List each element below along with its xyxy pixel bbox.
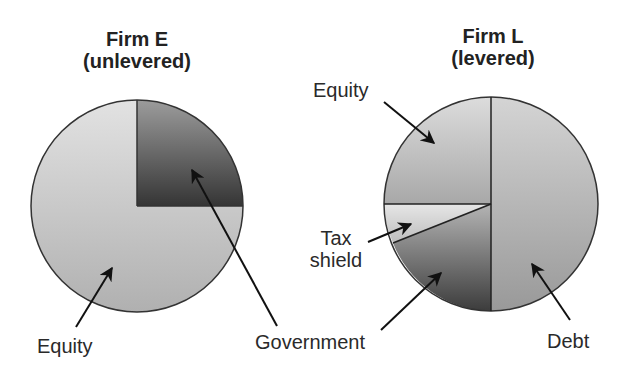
firm-l-equity-label: Equity — [313, 79, 369, 101]
firm-l-title-line2: (levered) — [418, 47, 568, 69]
debt-label: Debt — [547, 330, 589, 352]
arrow-government-firm-l — [381, 273, 441, 330]
firm-l-debt-slice — [491, 97, 598, 311]
firm-e-title-line1: Firm E — [62, 28, 212, 50]
firm-e-title: Firm E (unlevered) — [62, 28, 212, 72]
firm-l-title-line1: Firm L — [418, 25, 568, 47]
firm-e-equity-label: Equity — [37, 335, 93, 357]
firm-e-title-line2: (unlevered) — [62, 50, 212, 72]
firm-l-title: Firm L (levered) — [418, 25, 568, 69]
government-label: Government — [255, 331, 365, 353]
firm-e-government-slice — [137, 100, 243, 206]
diagram-canvas: Firm E (unlevered) Firm L (levered) Equi… — [0, 0, 633, 383]
tax-shield-label: Tax shield — [301, 227, 371, 271]
tax-shield-label-line1: Tax — [301, 227, 371, 249]
firm-l-equity-slice — [384, 97, 491, 204]
tax-shield-label-line2: shield — [301, 249, 371, 271]
